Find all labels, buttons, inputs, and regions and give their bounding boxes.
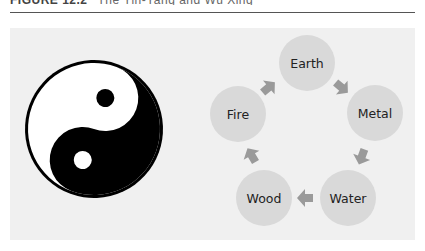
- node-label: Metal: [358, 106, 393, 121]
- node-fire: Fire: [210, 86, 266, 142]
- node-earth: Earth: [279, 35, 335, 91]
- arrow-metal-to-water-icon: [350, 146, 372, 167]
- arrow-wood-to-fire-icon: [240, 144, 264, 167]
- node-wood: Wood: [236, 170, 292, 226]
- yin-yang-icon: [6, 41, 183, 218]
- node-label: Wood: [247, 191, 282, 206]
- node-label: Fire: [227, 107, 250, 122]
- node-water: Water: [320, 170, 376, 226]
- node-metal: Metal: [347, 85, 403, 141]
- node-label: Water: [330, 191, 368, 206]
- node-label: Earth: [290, 56, 324, 71]
- arrow-fire-to-earth-icon: [257, 75, 281, 99]
- arrow-water-to-wood-icon: [297, 189, 313, 207]
- arrow-earth-to-metal-icon: [330, 76, 354, 100]
- diagram-canvas: Earth Metal Water Wood Fire: [0, 0, 425, 251]
